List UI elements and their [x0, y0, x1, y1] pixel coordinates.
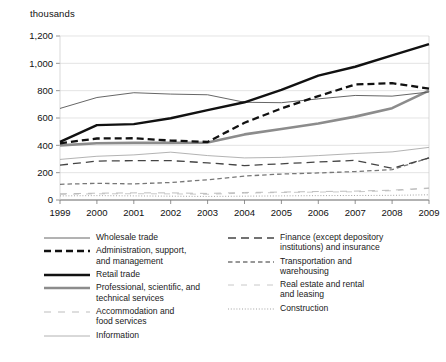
- legend-swatch-line: [44, 331, 90, 341]
- x-axis-tick-label: 2000: [86, 207, 107, 218]
- legend-swatch: [228, 280, 274, 290]
- x-axis-tick-label: 2004: [234, 207, 255, 218]
- legend-swatch: [44, 233, 90, 243]
- legend-item[interactable]: Accommodation and food services: [44, 306, 229, 326]
- series-line: [60, 158, 429, 168]
- series-line: [60, 158, 429, 184]
- series-line: [60, 195, 429, 197]
- legend-swatch: [44, 246, 90, 256]
- y-axis-tick-label: 1,000: [29, 58, 53, 69]
- legend-swatch: [228, 233, 274, 243]
- y-axis-tick-label: 200: [37, 167, 53, 178]
- x-axis-tick-label: 1999: [49, 207, 70, 218]
- legend-item-label: Real estate and rental and leasing: [280, 279, 364, 299]
- legend-swatch-line: [228, 304, 274, 314]
- legend-item-label: Retail trade: [96, 269, 140, 279]
- legend-swatch-line: [228, 257, 274, 267]
- legend-item-label: Transportation and warehousing: [280, 256, 352, 276]
- legend-swatch: [44, 307, 90, 317]
- legend-item-label: Accommodation and food services: [96, 306, 174, 326]
- x-axis-tick-label: 2002: [160, 207, 181, 218]
- legend-item[interactable]: Real estate and rental and leasing: [228, 279, 446, 299]
- legend-swatch: [44, 331, 90, 341]
- legend-item-label: Professional, scientific, and technical …: [96, 282, 200, 302]
- legend-swatch-line: [44, 307, 90, 317]
- legend-swatch: [228, 257, 274, 267]
- legend-item[interactable]: Wholesale trade: [44, 232, 229, 242]
- legend-item[interactable]: Finance (except depository institutions)…: [228, 232, 446, 252]
- series-line: [60, 44, 429, 142]
- x-axis-tick-label: 2006: [308, 207, 329, 218]
- legend-item[interactable]: Information: [44, 330, 229, 340]
- x-axis-tick-label: 2007: [345, 207, 366, 218]
- y-axis-tick-label: 1,200: [29, 30, 53, 41]
- legend-swatch-line: [44, 270, 90, 280]
- series-line: [60, 92, 429, 108]
- legend-swatch-line: [44, 246, 90, 256]
- x-axis-tick-label: 2008: [382, 207, 403, 218]
- chart-figure: thousands 02004006008001,0001,2001999200…: [0, 0, 446, 362]
- legend-column-left: Wholesale tradeAdministration, support, …: [44, 232, 229, 343]
- x-axis-tick-label: 2009: [418, 207, 439, 218]
- legend-item-label: Wholesale trade: [96, 232, 158, 242]
- x-axis-tick-label: 2005: [271, 207, 292, 218]
- y-axis-tick-label: 800: [37, 85, 53, 96]
- legend-item-label: Finance (except depository institutions)…: [280, 232, 383, 252]
- series-line: [60, 188, 429, 194]
- legend-item[interactable]: Construction: [228, 303, 446, 313]
- legend-item[interactable]: Retail trade: [44, 269, 229, 279]
- legend-swatch-line: [44, 283, 90, 293]
- legend-item[interactable]: Administration, support, and management: [44, 245, 229, 265]
- legend-swatch-line: [228, 233, 274, 243]
- legend-swatch-line: [44, 233, 90, 243]
- legend-item-label: Information: [96, 330, 139, 340]
- legend-item-label: Construction: [280, 303, 328, 313]
- x-axis-tick-label: 2003: [197, 207, 218, 218]
- legend-swatch: [44, 270, 90, 280]
- legend-column-right: Finance (except depository institutions)…: [228, 232, 446, 316]
- legend-swatch-line: [228, 280, 274, 290]
- y-axis-tick-label: 400: [37, 140, 53, 151]
- legend-item[interactable]: Transportation and warehousing: [228, 256, 446, 276]
- legend-swatch: [44, 283, 90, 293]
- series-line: [60, 147, 429, 159]
- legend-item[interactable]: Professional, scientific, and technical …: [44, 282, 229, 302]
- legend-item-label: Administration, support, and management: [96, 245, 186, 265]
- x-axis-tick-label: 2001: [123, 207, 144, 218]
- y-axis-tick-label: 0: [48, 194, 53, 205]
- y-axis-tick-label: 600: [37, 112, 53, 123]
- legend-swatch: [228, 304, 274, 314]
- chart-legend: Wholesale tradeAdministration, support, …: [0, 232, 446, 362]
- line-chart-plot: 02004006008001,0001,20019992000200120022…: [0, 18, 446, 226]
